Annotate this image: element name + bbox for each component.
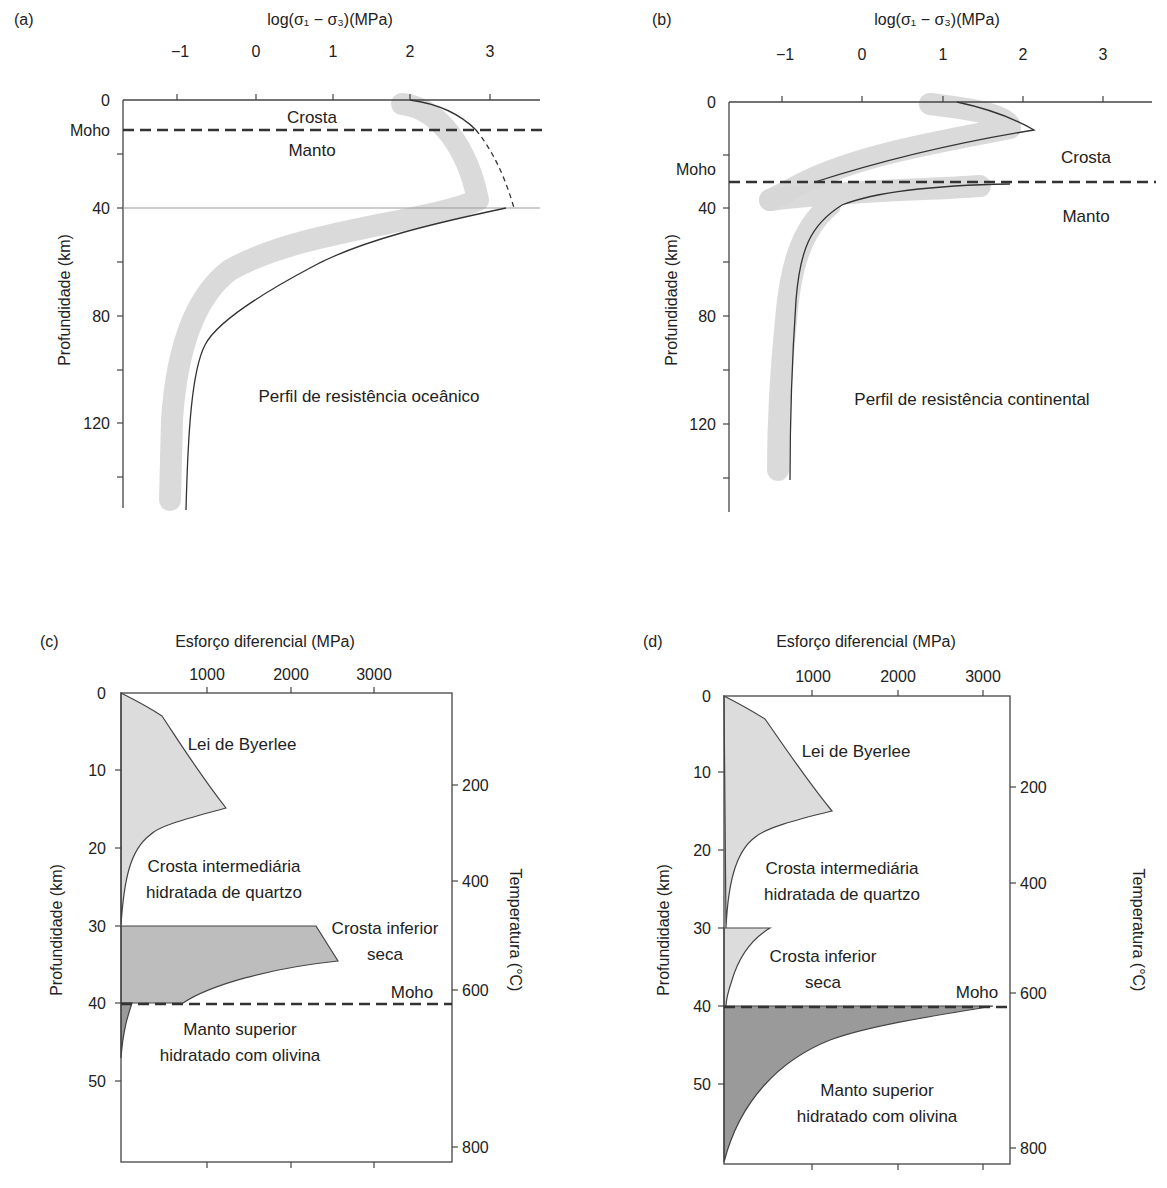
panel-b-mantle-label: Manto (1062, 207, 1109, 226)
panel-a-letter: (a) (14, 11, 34, 28)
panel-a-xtick: 2 (406, 43, 415, 60)
panel-b: (b) log(σ₁ − σ₃)(MPa) −1 0 1 2 3 0 40 (652, 11, 1156, 512)
panel-c-ytick: 50 (88, 1073, 106, 1090)
panel-a-uncertainty-band (170, 104, 478, 500)
panel-a-ductile-curve (186, 208, 506, 510)
panel-d-temp-tick: 800 (1020, 1140, 1047, 1157)
panel-c-temp-tick: 600 (462, 982, 489, 999)
panel-d-temp-tick: 600 (1020, 985, 1047, 1002)
panel-c-mid-crust-label-2: hidratada de quartzo (146, 883, 302, 902)
panel-c-lower-crust-region (121, 926, 338, 1003)
panel-b-xtick: 2 (1019, 46, 1028, 63)
panel-d: (d) Esforço diferencial (MPa) 1000 2000 … (643, 633, 1147, 1170)
panel-c-x-axis-title: Esforço diferencial (MPa) (175, 633, 355, 650)
panel-c-mantle-label-1: Manto superior (183, 1020, 297, 1039)
panel-a-xtick: 3 (486, 43, 495, 60)
panel-b-y-ticks (723, 155, 729, 478)
panel-d-mantle-label-1: Manto superior (820, 1081, 934, 1100)
panel-b-ytick: 0 (707, 94, 716, 111)
panel-d-mantle-label-2: hidratado com olivina (797, 1107, 958, 1126)
panel-b-xtick: 3 (1099, 46, 1108, 63)
panel-c-ytick: 20 (88, 840, 106, 857)
panel-a-x-ticks (177, 94, 490, 100)
panel-a-ytick: 120 (83, 415, 110, 432)
panel-d-temp-tick: 400 (1020, 875, 1047, 892)
panel-a-xtick: 1 (329, 43, 338, 60)
panel-c: (c) Esforço diferencial (MPa) 1000 2000 … (40, 633, 524, 1168)
panel-d-lower-crust-region (724, 928, 770, 1006)
panel-b-ytick: 80 (698, 308, 716, 325)
panel-a-y-axis-title: Profundidade (km) (56, 234, 73, 366)
panel-c-ytick: 40 (88, 995, 106, 1012)
panel-d-ytick: 20 (693, 842, 711, 859)
panel-a-crust-label: Crosta (287, 108, 338, 127)
panel-d-temp-ticks (1010, 787, 1016, 1148)
panel-c-ytick: 0 (97, 685, 106, 702)
panel-d-xtick: 1000 (795, 668, 831, 685)
panel-b-uncertainty-band-mantle (770, 186, 980, 470)
panel-d-lower-crust-label-1: Crosta inferior (770, 947, 877, 966)
panel-c-xtick: 2000 (273, 666, 309, 683)
panel-a-moho-label: Moho (70, 122, 110, 139)
panel-b-ytick: 120 (689, 416, 716, 433)
panel-a-xtick: −1 (171, 43, 189, 60)
panel-d-xtick: 2000 (880, 668, 916, 685)
panel-c-letter: (c) (40, 633, 59, 650)
panel-d-mid-crust-label-1: Crosta intermediária (765, 859, 919, 878)
panel-a-xtick: 0 (252, 43, 261, 60)
panel-d-letter: (d) (643, 633, 663, 650)
panel-b-xtick: 1 (939, 46, 948, 63)
panel-a-mantle-label: Manto (288, 141, 335, 160)
panel-d-ytick: 30 (693, 920, 711, 937)
panel-b-x-axis-title: log(σ₁ − σ₃)(MPa) (874, 11, 999, 28)
panel-d-y-axis-title: Profundidade (km) (655, 864, 672, 996)
panel-c-ytick: 30 (88, 918, 106, 935)
panel-d-byerlee-label: Lei de Byerlee (802, 742, 911, 761)
panel-b-crust-label: Crosta (1061, 148, 1112, 167)
panel-c-moho-label: Moho (391, 983, 434, 1002)
panel-c-xtick: 1000 (189, 666, 225, 683)
panel-a-ytick: 80 (92, 308, 110, 325)
panel-d-moho-label: Moho (956, 983, 999, 1002)
panel-c-lower-crust-label-2: seca (367, 945, 403, 964)
panel-c-y-axis-title: Profundidade (km) (48, 864, 65, 996)
panel-c-xtick: 3000 (356, 666, 392, 683)
strength-profiles-figure: (a) log(σ₁ − σ₃)(MPa) −1 0 1 2 3 0 (0, 0, 1167, 1188)
panel-b-caption: Perfil de resistência continental (854, 390, 1089, 409)
panel-a-caption: Perfil de resistência oceânico (258, 387, 479, 406)
panel-c-temp-tick: 800 (462, 1139, 489, 1156)
panel-d-lower-crust-label-2: seca (805, 973, 841, 992)
panel-d-temp-tick: 200 (1020, 779, 1047, 796)
panel-d-ytick: 40 (693, 998, 711, 1015)
panel-c-mantle-label-2: hidratado com olivina (160, 1046, 321, 1065)
panel-c-byerlee-label: Lei de Byerlee (188, 735, 297, 754)
panel-a: (a) log(σ₁ − σ₃)(MPa) −1 0 1 2 3 0 (14, 11, 542, 510)
panel-a-ytick: 0 (101, 92, 110, 109)
panel-b-x-ticks (782, 96, 1103, 102)
panel-d-temperature-axis-title: Temperatura (°C) (1130, 869, 1147, 992)
panel-d-xtick: 3000 (965, 668, 1001, 685)
panel-c-temperature-axis-title: Temperatura (°C) (507, 869, 524, 992)
panel-b-letter: (b) (652, 11, 672, 28)
panel-d-ytick: 0 (702, 688, 711, 705)
panel-a-x-axis-title: log(σ₁ − σ₃)(MPa) (267, 11, 392, 28)
panel-c-temp-tick: 200 (462, 777, 489, 794)
panel-c-temp-ticks (452, 785, 458, 1147)
panel-a-y-ticks (117, 154, 123, 477)
panel-d-x-axis-title: Esforço diferencial (MPa) (776, 633, 956, 650)
panel-c-mid-crust-label-1: Crosta intermediária (147, 857, 301, 876)
panel-b-moho-label: Moho (676, 161, 716, 178)
panel-b-y-axis-title: Profundidade (km) (663, 234, 680, 366)
panel-c-temp-tick: 400 (462, 873, 489, 890)
panel-b-ytick: 40 (698, 200, 716, 217)
panel-b-xtick: −1 (776, 46, 794, 63)
panel-d-y-ticks (718, 772, 724, 1084)
panel-b-xtick: 0 (858, 46, 867, 63)
panel-c-lower-crust-label-1: Crosta inferior (332, 919, 439, 938)
panel-c-y-ticks (115, 770, 121, 1081)
panel-c-ytick: 10 (88, 762, 106, 779)
panel-d-mid-crust-label-2: hidratada de quartzo (764, 885, 920, 904)
panel-a-ytick: 40 (92, 200, 110, 217)
panel-d-ytick: 50 (693, 1076, 711, 1093)
panel-d-ytick: 10 (693, 764, 711, 781)
